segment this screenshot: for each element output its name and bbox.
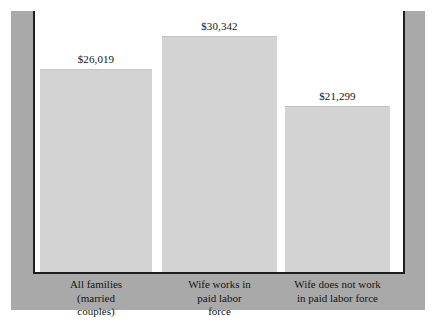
bar-chart-figure: $26,019 $30,342 $21,299 All families (ma…	[0, 0, 434, 327]
bar-group: $30,342	[162, 0, 277, 272]
bar[interactable]	[40, 69, 152, 272]
category-axis-labels: All families (married couples) Wife work…	[0, 274, 434, 327]
category-label: All families (married couples)	[36, 278, 156, 319]
category-label-line: (married	[36, 292, 156, 306]
bar[interactable]	[162, 36, 277, 272]
bar-group: $26,019	[40, 0, 152, 272]
category-label: Wife does not work in paid labor force	[263, 278, 413, 305]
plot-area: $26,019 $30,342 $21,299	[0, 0, 434, 272]
category-label-line: force	[160, 305, 280, 319]
category-label-line: paid labor	[160, 292, 280, 306]
bar[interactable]	[285, 106, 390, 272]
category-label-line: couples)	[36, 305, 156, 319]
bar-group: $21,299	[285, 0, 390, 272]
category-label-line: Wife does not work	[263, 278, 413, 292]
category-label-line: in paid labor force	[263, 292, 413, 306]
category-label: Wife works in paid labor force	[160, 278, 280, 319]
bar-value-label: $21,299	[319, 90, 355, 102]
category-label-line: All families	[36, 278, 156, 292]
category-label-line: Wife works in	[160, 278, 280, 292]
bar-value-label: $30,342	[201, 20, 237, 32]
bar-value-label: $26,019	[78, 53, 114, 65]
